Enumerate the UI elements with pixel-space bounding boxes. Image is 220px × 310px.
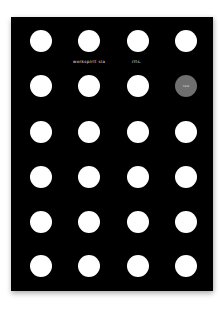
- accent-dot-label: new: [183, 85, 190, 88]
- white-dot: [127, 255, 149, 277]
- word-caption: rīts.: [132, 60, 142, 64]
- white-dot: [30, 75, 52, 97]
- black-dotted-card: workspirit sia rīts. new: [11, 17, 213, 291]
- white-dot: [78, 121, 100, 143]
- white-dot: [30, 211, 52, 233]
- white-dot: [175, 30, 197, 52]
- white-dot: [30, 166, 52, 188]
- white-dot: [175, 211, 197, 233]
- white-dot: [30, 30, 52, 52]
- white-dot: [78, 166, 100, 188]
- accent-gray-dot: new: [175, 75, 197, 97]
- white-dot: [127, 166, 149, 188]
- white-dot: [78, 75, 100, 97]
- white-dot: [127, 75, 149, 97]
- company-caption: workspirit sia: [73, 60, 105, 64]
- white-dot: [127, 121, 149, 143]
- white-dot: [78, 255, 100, 277]
- white-dot: [78, 211, 100, 233]
- white-dot: [78, 30, 100, 52]
- white-dot: [30, 121, 52, 143]
- white-dot: [127, 30, 149, 52]
- white-dot: [127, 211, 149, 233]
- white-dot: [175, 166, 197, 188]
- white-dot: [175, 121, 197, 143]
- white-dot: [30, 255, 52, 277]
- white-dot: [175, 255, 197, 277]
